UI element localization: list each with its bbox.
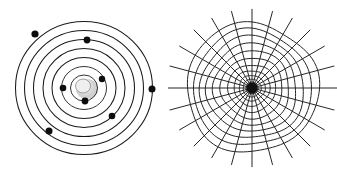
bohr-atom-diagram-panel <box>0 0 168 176</box>
bohr-atom-svg <box>0 0 168 176</box>
nucleus-core <box>76 79 91 93</box>
web-spoke-14 <box>170 66 251 88</box>
electron-e2 <box>99 76 105 82</box>
web-hub-group <box>247 83 258 94</box>
electron-e8 <box>149 86 156 93</box>
polar-web-svg <box>168 0 337 176</box>
electron-e5 <box>84 37 91 44</box>
electron-e3 <box>60 85 67 92</box>
polar-web-grid-panel <box>168 0 337 176</box>
web-hub <box>247 83 258 94</box>
electron-e6 <box>31 30 38 37</box>
electron-e4 <box>109 113 116 120</box>
figure-root <box>0 0 337 176</box>
web-spoke-22 <box>253 30 310 87</box>
electron-e7 <box>46 128 53 135</box>
electron-e1 <box>82 98 89 105</box>
